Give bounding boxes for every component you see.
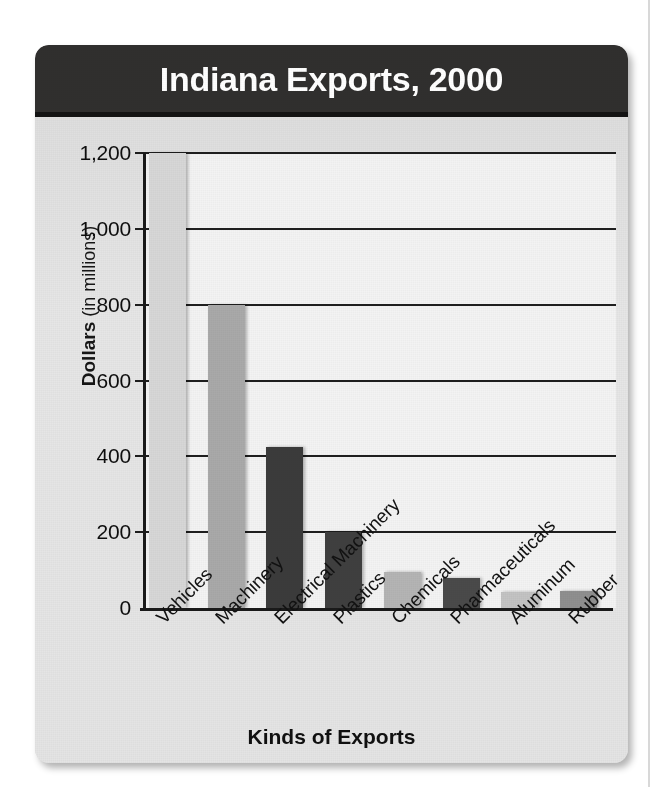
y-tick-label: 400	[97, 444, 131, 468]
y-tick-label: 200	[97, 520, 131, 544]
chart-title-bar: Indiana Exports, 2000	[35, 45, 628, 117]
x-axis-title: Kinds of Exports	[35, 725, 628, 749]
y-axis-ticks: 02004006008001,0001,200	[53, 117, 131, 617]
bar	[149, 153, 186, 608]
chart-body: Dollars (in millions) 02004006008001,000…	[35, 117, 628, 763]
y-tick-label: 600	[97, 369, 131, 393]
y-tick-label: 1,200	[79, 141, 131, 165]
x-axis-line	[140, 608, 613, 611]
x-axis-ticks: VehiclesMachineryElectrical MachineryPla…	[143, 613, 623, 733]
chart-card: Indiana Exports, 2000 Dollars (in millio…	[35, 45, 628, 763]
y-tick-label: 0	[120, 596, 131, 620]
page-title: Indiana Exports, 2000	[160, 62, 503, 96]
page-rule	[648, 0, 650, 787]
y-tick-label: 800	[97, 293, 131, 317]
y-tick-label: 1,000	[79, 217, 131, 241]
bar	[208, 305, 245, 608]
